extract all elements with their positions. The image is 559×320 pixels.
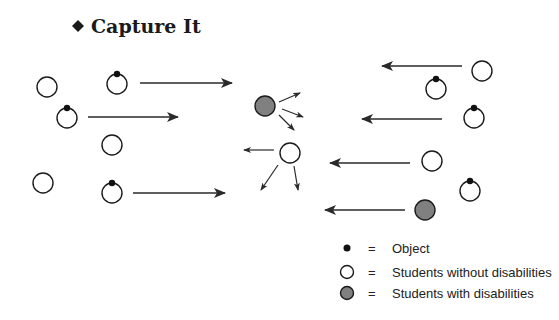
movement-arrow [282,109,303,117]
student-without-disability [33,173,53,193]
object-dot-icon [344,245,351,252]
object-dot-icon [467,178,473,184]
legend-equals: = [368,265,376,280]
diamond-bullet-icon [72,20,84,32]
legend-equals: = [368,286,376,301]
student-without-disability [102,180,122,203]
student-with-disability [255,96,275,116]
student-without-disability [426,76,446,99]
legend: = Object = Students without disabilities… [341,241,553,301]
white-circle-icon [280,143,300,163]
arrows [88,66,462,210]
student-without-disability [102,135,122,155]
object-dot-icon [433,76,439,82]
student-without-disability [37,77,57,97]
movement-arrow [279,115,294,130]
student-without-disability [422,151,442,171]
student-without-disability [464,105,484,128]
legend-item-students-with: = Students with disabilities [341,286,535,301]
title-text: Capture It [91,15,201,37]
legend-item-students-without: = Students without disabilities [341,265,553,280]
object-dot-icon [64,105,70,111]
student-without-disability [107,71,127,94]
legend-label: Students with disabilities [392,286,534,301]
student-with-disability [415,200,435,220]
legend-item-object: = Object [344,241,430,256]
gray-circle-icon [341,287,354,300]
movement-arrow [294,166,298,190]
student-without-disability [280,143,300,163]
title: Capture It [72,15,201,37]
white-circle-icon [472,61,492,81]
students [33,61,492,220]
object-dot-icon [114,71,120,77]
capture-it-diagram: Capture It = Object = Students without d… [0,0,559,320]
movement-arrow [279,93,300,102]
white-circle-icon [422,151,442,171]
white-circle-icon [33,173,53,193]
gray-circle-icon [415,200,435,220]
white-circle-icon [341,266,354,279]
gray-circle-icon [255,96,275,116]
white-circle-icon [37,77,57,97]
movement-arrow [261,165,278,190]
object-dot-icon [471,105,477,111]
legend-label: Students without disabilities [392,265,552,280]
student-without-disability [57,105,77,128]
legend-equals: = [368,241,376,256]
white-circle-icon [102,135,122,155]
object-dot-icon [109,180,115,186]
legend-label: Object [392,241,430,256]
student-without-disability [460,178,480,201]
student-without-disability [472,61,492,81]
